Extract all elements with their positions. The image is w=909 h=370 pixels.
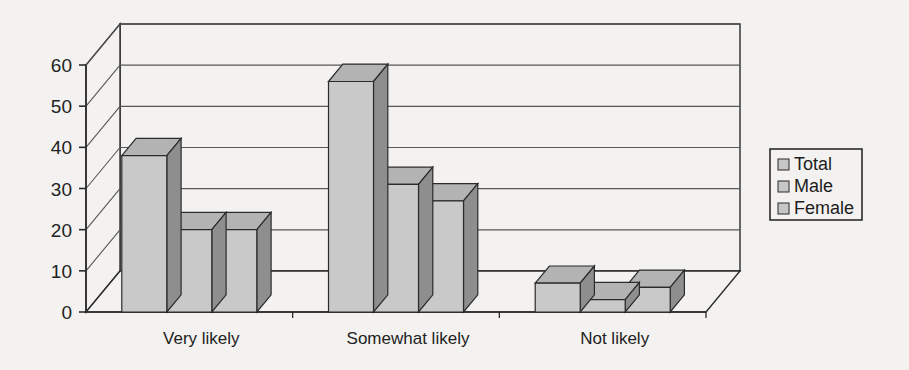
bar-front-face — [329, 82, 374, 313]
chart-screenshot: 6050403020100Very likelySomewhat likelyN… — [0, 0, 909, 370]
bar-side-face — [212, 212, 226, 312]
y-axis-tick-label: 50 — [51, 96, 72, 117]
x-axis-category-label: Very likely — [163, 329, 240, 348]
bar-side-face — [167, 138, 181, 312]
bar-side-face — [419, 167, 433, 312]
bar-side-face — [257, 212, 271, 312]
x-axis-category-label: Somewhat likely — [347, 329, 470, 348]
bar-side-face — [464, 184, 478, 312]
bar-front-face — [122, 156, 167, 312]
y-axis-tick-label: 40 — [51, 137, 72, 158]
y-axis-tick-label: 10 — [51, 261, 72, 282]
legend-item-label: Female — [794, 198, 854, 218]
bar-side-face — [374, 64, 388, 312]
y-axis-tick-label: 30 — [51, 179, 72, 200]
bar-front-face — [535, 283, 580, 312]
x-axis-category-label: Not likely — [580, 329, 649, 348]
y-axis-tick-label: 20 — [51, 220, 72, 241]
legend-swatch-icon — [778, 203, 789, 214]
y-axis-tick-label: 0 — [61, 302, 72, 323]
legend-item-label: Male — [794, 176, 833, 196]
three-d-bar-chart: 6050403020100Very likelySomewhat likelyN… — [0, 0, 909, 370]
legend-swatch-icon — [778, 181, 789, 192]
legend-item-label: Total — [794, 154, 832, 174]
legend-swatch-icon — [778, 159, 789, 170]
y-axis-tick-label: 60 — [51, 55, 72, 76]
